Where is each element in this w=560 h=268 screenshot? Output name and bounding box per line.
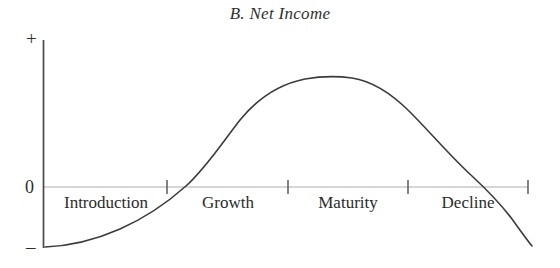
stage-label-maturity: Maturity	[288, 194, 408, 211]
y-axis-negative-label: –	[26, 237, 36, 256]
chart-plot-area	[0, 0, 560, 268]
chart-figure: B. Net Income + 0 – Introduction Growth …	[0, 0, 560, 268]
stage-label-introduction: Introduction	[46, 194, 166, 211]
net-income-curve	[45, 77, 532, 247]
stage-label-growth: Growth	[168, 194, 288, 211]
y-axis-positive-label: +	[26, 29, 37, 48]
y-axis-zero-label: 0	[25, 178, 34, 196]
stage-label-decline: Decline	[408, 194, 528, 211]
